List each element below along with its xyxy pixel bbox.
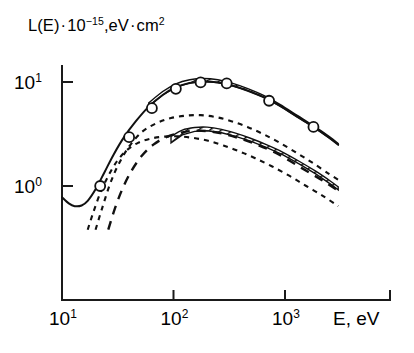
data-point-marker <box>308 122 318 132</box>
y-tick-label-2: 100 <box>14 175 42 197</box>
data-point-marker <box>264 96 274 106</box>
axis-lines <box>62 66 390 300</box>
tick-label-group: 101102103101100E, eV <box>14 71 380 329</box>
data-point-marker <box>196 77 206 87</box>
x-axis-label: E, eV <box>333 308 380 329</box>
chart-figure: L(E)·10−15,eV·cm2 101102103101100E, eV <box>0 0 414 353</box>
data-point-marker <box>124 132 134 142</box>
curve-group <box>62 82 338 230</box>
band-group <box>149 79 338 190</box>
x-tick-label-3: 103 <box>272 307 300 329</box>
data-point-marker <box>171 84 181 94</box>
data-point-marker <box>222 78 232 88</box>
plot-area: 101102103101100E, eV <box>0 0 414 353</box>
x-tick-label-2: 102 <box>161 307 189 329</box>
y-tick-label-1: 101 <box>14 71 42 93</box>
axes <box>62 66 390 300</box>
x-tick-label-1: 101 <box>49 307 77 329</box>
data-point-marker <box>95 181 105 191</box>
marker-group <box>95 77 318 191</box>
data-point-marker <box>147 103 157 113</box>
